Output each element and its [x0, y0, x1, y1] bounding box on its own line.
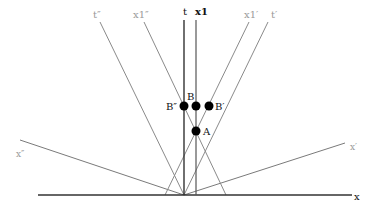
label-b-double-prime: B″ [166, 101, 177, 112]
label-x: x [354, 191, 360, 202]
label-x1: x1 [195, 6, 208, 17]
label-x-prime: x′ [350, 142, 357, 152]
event-b-prime [205, 102, 214, 111]
label-x1-double-prime: x1″ [133, 9, 149, 20]
event-b-double-prime [180, 102, 189, 111]
label-x-double-prime: x″ [16, 149, 25, 159]
label-x1-prime: x1′ [244, 9, 259, 20]
label-b-prime: B′ [215, 101, 225, 112]
spacetime-diagram: t x1 t″ x1″ x1′ t′ x″ x′ x B″ B B′ A [0, 0, 376, 209]
label-b: B [187, 91, 194, 102]
x-prime-axis [184, 143, 345, 195]
event-a [192, 127, 201, 136]
event-b [192, 102, 201, 111]
label-a: A [202, 126, 211, 137]
label-t: t [183, 6, 187, 17]
x-double-prime-axis [20, 140, 184, 195]
label-t-double-prime: t″ [93, 9, 101, 20]
label-t-prime: t′ [271, 9, 278, 20]
